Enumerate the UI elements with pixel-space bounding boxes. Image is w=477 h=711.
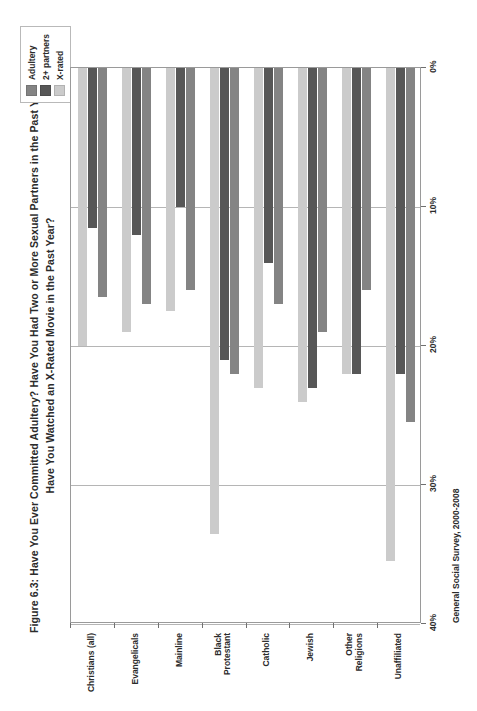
bar xyxy=(122,68,131,332)
axis-tick xyxy=(421,345,426,346)
figure-title-line-2: Have You Watched an X-Rated Movie in the… xyxy=(42,0,58,711)
bar xyxy=(274,68,283,304)
legend-swatch-icon xyxy=(40,85,51,96)
bar xyxy=(342,68,351,374)
category-tick xyxy=(289,623,290,628)
legend-item-label: X-rated xyxy=(55,51,65,80)
category-label: Black Protestant xyxy=(214,633,234,675)
category-label: Evangelicals xyxy=(131,633,141,685)
value-axis: 40%30%20%10%0% xyxy=(421,67,447,623)
bar xyxy=(396,68,405,374)
axis-tick-label: 30% xyxy=(428,475,438,492)
category-label: Unaffiliated xyxy=(394,633,404,679)
legend-item: Adultery xyxy=(26,34,37,96)
chart-legend: Adultery2+ partnersX-rated xyxy=(20,26,71,103)
bar xyxy=(230,68,239,374)
axis-tick xyxy=(421,623,426,624)
bar xyxy=(186,68,195,290)
bar xyxy=(308,68,317,388)
category-tick xyxy=(114,623,115,628)
axis-tick xyxy=(421,484,426,485)
category-label: Catholic xyxy=(263,633,273,667)
bar-group xyxy=(378,68,422,622)
plot-area xyxy=(70,67,421,623)
bar-group xyxy=(247,68,291,622)
bar xyxy=(166,68,175,311)
bar-group xyxy=(203,68,247,622)
category-label: Other Religions xyxy=(345,633,365,671)
bar xyxy=(176,68,185,207)
category-tick xyxy=(158,623,159,628)
source-note: General Social Survey, 2000-2008 xyxy=(451,488,461,623)
figure-canvas: Figure 6.3: Have You Ever Committed Adul… xyxy=(0,0,477,711)
bar xyxy=(78,68,87,346)
bar xyxy=(362,68,371,290)
bar xyxy=(210,68,219,534)
axis-tick-label: 20% xyxy=(428,336,438,353)
category-axis: Christians (all)EvangelicalsMainlineBlac… xyxy=(70,627,421,711)
category-tick xyxy=(246,623,247,628)
axis-tick-label: 0% xyxy=(428,60,438,72)
bar-group xyxy=(115,68,159,622)
legend-item-label: Adultery xyxy=(27,46,37,80)
category-label: Mainline xyxy=(175,633,185,667)
bar xyxy=(318,68,327,332)
bar-group xyxy=(334,68,378,622)
bar xyxy=(386,68,395,561)
bar-group xyxy=(71,68,115,622)
bar xyxy=(298,68,307,402)
category-tick xyxy=(377,623,378,628)
bar xyxy=(254,68,263,388)
bar-group xyxy=(290,68,334,622)
bar xyxy=(132,68,141,235)
axis-tick xyxy=(421,206,426,207)
legend-swatch-icon xyxy=(26,85,37,96)
bar xyxy=(142,68,151,304)
bar xyxy=(88,68,97,228)
bar-group xyxy=(159,68,203,622)
axis-tick xyxy=(421,67,426,68)
bar xyxy=(98,68,107,297)
category-tick xyxy=(202,623,203,628)
category-label: Jewish xyxy=(306,633,316,661)
legend-item: X-rated xyxy=(54,34,65,96)
legend-item-label: 2+ partners xyxy=(41,34,51,80)
axis-tick-label: 10% xyxy=(428,197,438,214)
bar xyxy=(264,68,273,263)
category-tick xyxy=(70,623,71,628)
figure-title: Figure 6.3: Have You Ever Committed Adul… xyxy=(26,0,59,711)
category-tick xyxy=(333,623,334,628)
bar xyxy=(352,68,361,374)
legend-item: 2+ partners xyxy=(40,34,51,96)
bar xyxy=(406,68,415,422)
legend-swatch-icon xyxy=(54,85,65,96)
category-label: Christians (all) xyxy=(87,633,97,692)
figure-title-line-1: Figure 6.3: Have You Ever Committed Adul… xyxy=(26,0,42,711)
axis-tick-label: 40% xyxy=(428,614,438,631)
bar xyxy=(220,68,229,360)
